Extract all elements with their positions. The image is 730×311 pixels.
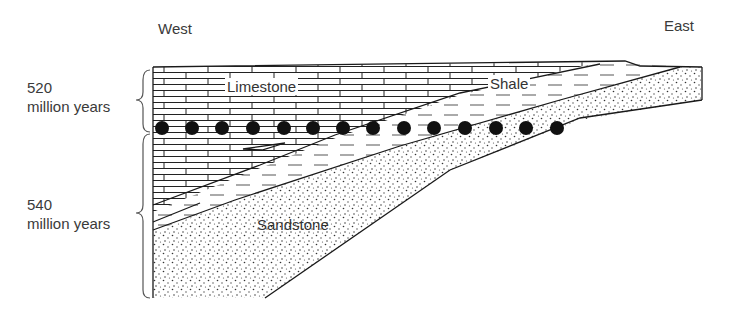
age-unit: million years	[27, 97, 110, 116]
sandstone-label: Sandstone	[257, 216, 329, 233]
limestone-label: Limestone	[225, 78, 298, 95]
age-unit: million years	[27, 214, 110, 233]
age-label-520: 520 million years	[27, 78, 110, 116]
cross-section-diagram	[0, 0, 730, 311]
shale-label: Shale	[488, 75, 530, 92]
age-value: 520	[27, 78, 110, 97]
age-label-540: 540 million years	[27, 195, 110, 233]
west-label: West	[158, 20, 192, 37]
age-value: 540	[27, 195, 110, 214]
east-label: East	[664, 17, 694, 34]
